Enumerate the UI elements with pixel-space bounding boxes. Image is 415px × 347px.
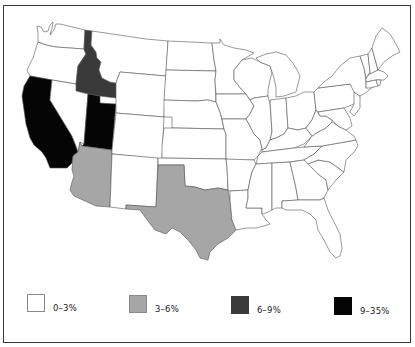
state-kansas[interactable] <box>162 128 226 159</box>
state-nebraska[interactable] <box>164 100 224 129</box>
legend-swatch-6-9 <box>231 296 249 314</box>
state-wyoming[interactable] <box>116 72 166 117</box>
state-new-mexico[interactable] <box>110 154 158 209</box>
state-south-dakota[interactable] <box>164 70 216 102</box>
legend-swatch-3-6 <box>129 295 147 313</box>
state-pennsylvania[interactable] <box>314 84 356 112</box>
state-north-dakota[interactable] <box>166 41 216 71</box>
states <box>22 22 400 260</box>
legend-item-6-9: 6–9% <box>231 296 281 314</box>
legend-label-9-35: 9–35% <box>360 306 390 316</box>
legend-item-0-3: 0–3% <box>27 294 77 312</box>
legend-swatch-9-35 <box>334 297 352 315</box>
state-utah[interactable] <box>82 94 116 150</box>
legend-label-6-9: 6–9% <box>257 305 281 315</box>
state-florida[interactable] <box>282 198 342 258</box>
state-colorado[interactable] <box>112 113 164 159</box>
legend-item-3-6: 3–6% <box>129 295 179 313</box>
legend-label-3-6: 3–6% <box>155 304 179 314</box>
legend-label-0-3: 0–3% <box>53 303 77 313</box>
legend-item-9-35: 9–35% <box>334 297 390 315</box>
state-maine[interactable] <box>372 28 400 70</box>
legend-swatch-0-3 <box>27 294 45 312</box>
